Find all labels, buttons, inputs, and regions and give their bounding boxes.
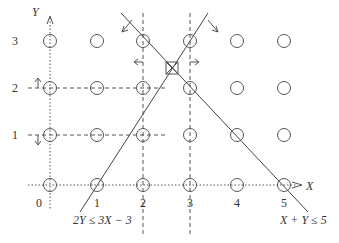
x-tick-2: 2 [140, 197, 146, 209]
branch-down-arrow-icon [35, 135, 41, 145]
arrow-left-icon [122, 20, 132, 32]
lattice-diagram [0, 0, 339, 243]
x-axis-label: X [306, 180, 313, 192]
branch-up-arrow-icon [35, 78, 41, 88]
y-tick-1: 1 [12, 129, 18, 141]
constraint-label-c2: X + Y ≤ 5 [280, 214, 327, 226]
x-tick-3: 3 [187, 197, 193, 209]
lattice-points [44, 35, 291, 192]
constraint-line-2y-le-3x-3 [80, 13, 208, 212]
branch-right-arrow-icon [190, 59, 199, 65]
x-tick-4: 4 [234, 197, 240, 209]
y-tick-2: 2 [12, 82, 18, 94]
x-axis-arrow-icon [292, 182, 302, 188]
arrow-right-icon [208, 20, 218, 32]
y-tick-0: 0 [36, 197, 42, 209]
y-axis-label: Y [32, 6, 39, 18]
x-tick-5: 5 [281, 197, 287, 209]
branch-left-arrow-icon [134, 59, 143, 65]
y-tick-3: 3 [12, 35, 18, 47]
constraint-label-c1: 2Y ≤ 3X − 3 [73, 214, 132, 226]
x-tick-1: 1 [94, 197, 100, 209]
